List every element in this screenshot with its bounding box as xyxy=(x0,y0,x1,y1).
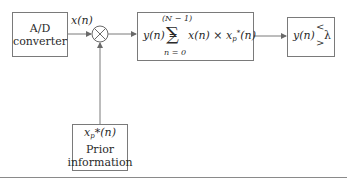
decision-lhs: y(n) xyxy=(293,29,315,42)
sum-term-x: x(n) × x xyxy=(188,29,232,42)
multiplier-icon xyxy=(92,26,108,42)
prior-label-line3: information xyxy=(67,156,132,169)
adc-label-line2: converter xyxy=(13,35,67,48)
signal-label-xn: x(n) xyxy=(71,14,93,27)
sum-term: x(n) × xp*(n) xyxy=(188,29,256,43)
prior-sym-rest: *(n) xyxy=(95,126,116,139)
sum-upper-limit: (N − 1) xyxy=(162,14,192,23)
bottom-divider xyxy=(0,177,347,178)
prior-label-line2: Prior xyxy=(86,143,114,156)
adc-block: A/D converter xyxy=(12,12,68,57)
threshold-lambda: λ xyxy=(324,29,331,42)
sum-term-tail: (n) xyxy=(240,29,256,42)
prior-symbol: xp*(n) xyxy=(84,126,116,143)
adc-label-line1: A/D xyxy=(30,22,50,35)
sum-lower-limit: n = 0 xyxy=(164,48,186,57)
prior-information-block: xp*(n) Prior information xyxy=(72,124,128,171)
sigma-symbol: ∑ xyxy=(166,23,179,44)
